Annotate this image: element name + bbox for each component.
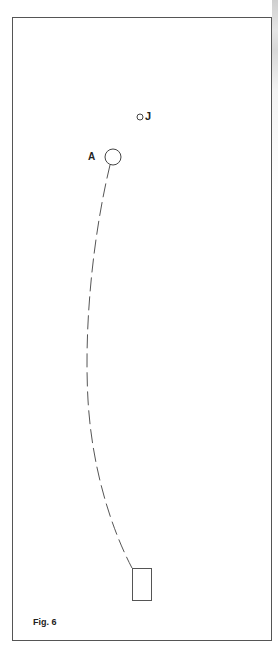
- point-a-label: A: [88, 152, 95, 162]
- figure-canvas: [0, 0, 278, 653]
- point-a-marker: [105, 149, 121, 165]
- point-j-label: J: [145, 111, 151, 122]
- point-j-marker: [137, 114, 143, 120]
- figure-caption: Fig. 6: [33, 618, 57, 627]
- dashed-trajectory-path: [87, 165, 132, 568]
- target-rectangle: [133, 569, 152, 601]
- figure-frame: [13, 18, 272, 641]
